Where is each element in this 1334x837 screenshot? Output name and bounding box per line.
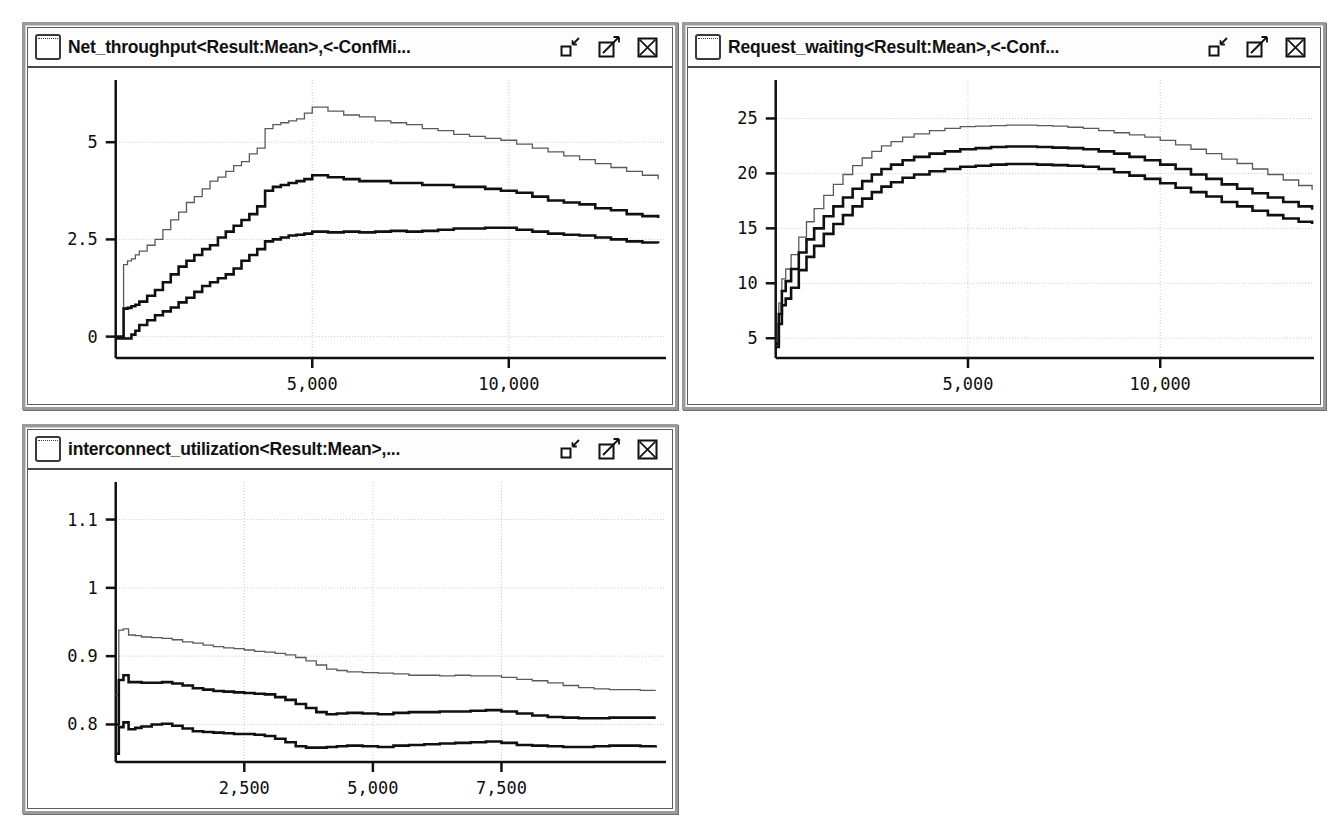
window-icon bbox=[35, 436, 61, 462]
series-line-mean bbox=[116, 675, 656, 724]
plot-net-throughput: 02.555,00010,000 bbox=[28, 68, 672, 404]
titlebar-net-throughput[interactable]: Net_throughput<Result:Mean>,<-ConfMi... bbox=[28, 28, 672, 68]
window-controls bbox=[560, 35, 664, 59]
window-icon bbox=[35, 34, 61, 60]
x-tick-label: 5,000 bbox=[942, 374, 993, 394]
window-title: Net_throughput<Result:Mean>,<-ConfMi... bbox=[68, 37, 553, 58]
window-request-waiting[interactable]: Request_waiting<Result:Mean>,<-Conf...51… bbox=[682, 22, 1326, 410]
x-tick-label: 2,500 bbox=[219, 778, 270, 798]
series-line-confmax bbox=[116, 107, 658, 336]
y-tick-label: 0.8 bbox=[67, 714, 98, 734]
series-line-confmin bbox=[776, 164, 1312, 347]
window-icon bbox=[695, 34, 721, 60]
y-tick-label: 15 bbox=[737, 218, 757, 238]
maximize-icon[interactable] bbox=[598, 35, 622, 59]
y-tick-label: 5 bbox=[748, 328, 758, 348]
series-line-mean bbox=[116, 175, 658, 336]
x-tick-label: 5,000 bbox=[347, 778, 398, 798]
x-tick-label: 10,000 bbox=[478, 374, 539, 394]
y-tick-label: 5 bbox=[88, 132, 98, 152]
y-tick-label: 0.9 bbox=[67, 646, 98, 666]
plot-area-net-throughput: 02.555,00010,000 bbox=[28, 68, 672, 404]
plot-area-interconnect-utilization: 0.80.911.12,5005,0007,500 bbox=[28, 470, 672, 808]
series-line-confmin bbox=[116, 722, 656, 753]
series-line-mean bbox=[776, 146, 1312, 343]
close-icon[interactable] bbox=[1284, 35, 1308, 59]
x-tick-label: 7,500 bbox=[476, 778, 527, 798]
window-interconnect-utilization[interactable]: interconnect_utilization<Result:Mean>,..… bbox=[22, 424, 678, 814]
series-line-confmin bbox=[116, 228, 658, 339]
y-tick-label: 1 bbox=[88, 578, 98, 598]
window-net-throughput[interactable]: Net_throughput<Result:Mean>,<-ConfMi...0… bbox=[22, 22, 678, 410]
plot-area-request-waiting: 5101520255,00010,000 bbox=[688, 68, 1320, 404]
close-icon[interactable] bbox=[636, 437, 660, 461]
desktop: Net_throughput<Result:Mean>,<-ConfMi...0… bbox=[0, 0, 1334, 837]
series-line-confmax bbox=[116, 629, 656, 695]
titlebar-interconnect-utilization[interactable]: interconnect_utilization<Result:Mean>,..… bbox=[28, 430, 672, 470]
window-controls bbox=[1208, 35, 1312, 59]
x-tick-label: 10,000 bbox=[1130, 374, 1191, 394]
y-tick-label: 10 bbox=[737, 273, 757, 293]
y-tick-label: 25 bbox=[737, 108, 757, 128]
y-tick-label: 1.1 bbox=[67, 510, 98, 530]
minimize-icon[interactable] bbox=[560, 437, 584, 461]
window-controls bbox=[560, 437, 664, 461]
y-tick-label: 0 bbox=[88, 327, 98, 347]
x-tick-label: 5,000 bbox=[287, 374, 338, 394]
maximize-icon[interactable] bbox=[1246, 35, 1270, 59]
plot-request-waiting: 5101520255,00010,000 bbox=[688, 68, 1320, 404]
window-title: Request_waiting<Result:Mean>,<-Conf... bbox=[728, 37, 1201, 58]
window-inner-request-waiting: Request_waiting<Result:Mean>,<-Conf...51… bbox=[687, 27, 1321, 405]
series-line-confmax bbox=[776, 125, 1312, 340]
close-icon[interactable] bbox=[636, 35, 660, 59]
window-inner-net-throughput: Net_throughput<Result:Mean>,<-ConfMi...0… bbox=[27, 27, 673, 405]
titlebar-request-waiting[interactable]: Request_waiting<Result:Mean>,<-Conf... bbox=[688, 28, 1320, 68]
window-inner-interconnect-utilization: interconnect_utilization<Result:Mean>,..… bbox=[27, 429, 673, 809]
maximize-icon[interactable] bbox=[598, 437, 622, 461]
y-tick-label: 20 bbox=[737, 163, 757, 183]
minimize-icon[interactable] bbox=[1208, 35, 1232, 59]
y-tick-label: 2.5 bbox=[67, 229, 98, 249]
window-title: interconnect_utilization<Result:Mean>,..… bbox=[68, 439, 553, 460]
plot-interconnect-utilization: 0.80.911.12,5005,0007,500 bbox=[28, 470, 672, 808]
minimize-icon[interactable] bbox=[560, 35, 584, 59]
